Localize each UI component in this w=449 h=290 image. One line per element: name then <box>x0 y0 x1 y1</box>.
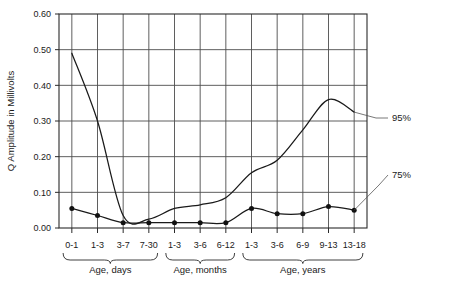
annotation-label: 75% <box>392 169 412 180</box>
y-axis-title-text: Q Amplitude in Millivolts <box>5 71 16 172</box>
x-tick-label: 9-13 <box>319 240 337 250</box>
x-axis-ticks: 0-11-33-77-301-33-66-121-33-66-99-1313-1… <box>65 228 365 250</box>
data-point-marker <box>146 220 151 225</box>
data-point-marker <box>275 211 280 216</box>
data-point-marker <box>95 213 100 218</box>
group-label: Age, months <box>173 264 227 275</box>
annotation-75pct: 75% <box>354 169 411 210</box>
series-line <box>72 53 354 224</box>
data-point-marker <box>249 206 254 211</box>
y-axis-ticks: 0.600.500.400.300.200.100.00 <box>33 9 59 233</box>
data-point-marker <box>223 220 228 225</box>
series-95pct <box>72 53 354 224</box>
x-tick-label: 3-7 <box>117 240 130 250</box>
data-point-marker <box>172 220 177 225</box>
y-tick-label: 0.30 <box>33 116 51 126</box>
x-tick-label: 7-30 <box>140 240 158 250</box>
data-point-marker <box>121 220 126 225</box>
x-tick-label: 1-3 <box>245 240 258 250</box>
q-amplitude-line-chart: Q Amplitude in Millivolts 0.600.500.400.… <box>0 0 449 290</box>
grid-layer <box>59 14 367 228</box>
data-point-marker <box>69 206 74 211</box>
series-75pct <box>69 204 356 225</box>
chart-figure: Q Amplitude in Millivolts 0.600.500.400.… <box>0 0 449 290</box>
data-point-marker <box>326 204 331 209</box>
x-tick-label: 1-3 <box>168 240 181 250</box>
x-tick-label: 6-9 <box>296 240 309 250</box>
group-label: Age, years <box>280 264 326 275</box>
x-tick-label: 0-1 <box>65 240 78 250</box>
category-group-braces: Age, daysAge, monthsAge, years <box>63 253 363 275</box>
y-tick-label: 0.10 <box>33 188 51 198</box>
y-tick-label: 0.60 <box>33 9 51 19</box>
series-annotations: 95%75% <box>354 112 411 210</box>
data-point-marker <box>198 220 203 225</box>
x-tick-label: 13-18 <box>343 240 366 250</box>
y-axis-title: Q Amplitude in Millivolts <box>5 71 16 172</box>
x-tick-label: 3-6 <box>271 240 284 250</box>
group-brace <box>166 253 235 264</box>
y-tick-label: 0.50 <box>33 45 51 55</box>
data-series-layer <box>69 53 356 225</box>
data-point-marker <box>300 211 305 216</box>
x-tick-label: 3-6 <box>194 240 207 250</box>
annotation-label: 95% <box>392 112 412 123</box>
y-tick-label: 0.40 <box>33 81 51 91</box>
x-tick-label: 1-3 <box>91 240 104 250</box>
y-tick-label: 0.00 <box>33 223 51 233</box>
series-line <box>72 207 354 224</box>
group-label: Age, days <box>89 264 131 275</box>
annotation-leader-line <box>354 112 388 118</box>
group-brace <box>243 253 363 264</box>
x-tick-label: 6-12 <box>217 240 235 250</box>
y-tick-label: 0.20 <box>33 152 51 162</box>
group-brace <box>63 253 158 264</box>
